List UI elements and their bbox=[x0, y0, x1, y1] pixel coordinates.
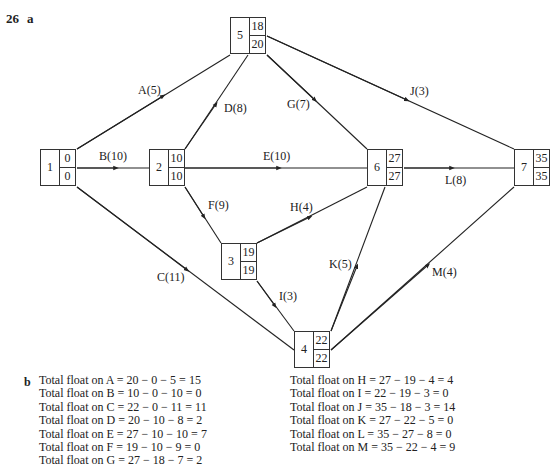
node-id: 7 bbox=[515, 150, 534, 185]
node-id: 4 bbox=[295, 332, 314, 367]
latest-time: 27 bbox=[387, 168, 402, 185]
part-b-label: b bbox=[24, 375, 31, 390]
node-id: 2 bbox=[150, 150, 169, 185]
activity-label-b: B(10) bbox=[99, 149, 127, 164]
node-7: 7 3535 bbox=[514, 149, 550, 186]
activity-label-d: D(8) bbox=[224, 101, 247, 116]
node-id: 1 bbox=[41, 150, 60, 185]
total-float-line: Total float on L = 35 − 27 − 8 = 0 bbox=[290, 428, 455, 441]
earliest-time: 19 bbox=[241, 244, 256, 262]
total-float-line: Total float on H = 27 − 19 − 4 = 4 bbox=[290, 374, 455, 387]
total-float-list-right: Total float on H = 27 − 19 − 4 = 4 Total… bbox=[290, 374, 455, 454]
activity-label-g: G(7) bbox=[287, 97, 310, 112]
activity-label-c: C(11) bbox=[157, 270, 185, 285]
activity-label-f: F(9) bbox=[208, 198, 229, 213]
total-float-line: Total float on E = 27 − 10 − 10 = 7 bbox=[39, 428, 207, 441]
total-float-line: Total float on I = 22 − 19 − 3 = 0 bbox=[290, 387, 455, 400]
earliest-time: 10 bbox=[169, 150, 184, 168]
total-float-line: Total float on G = 27 − 18 − 7 = 2 bbox=[39, 454, 207, 467]
question-number: 26 bbox=[6, 11, 19, 27]
activity-label-k: K(5) bbox=[329, 257, 352, 272]
node-id: 3 bbox=[222, 244, 241, 279]
latest-time: 35 bbox=[534, 168, 549, 185]
node-1: 1 00 bbox=[40, 149, 76, 186]
latest-time: 22 bbox=[314, 350, 329, 367]
total-float-line: Total float on B = 10 − 0 − 10 = 0 bbox=[39, 387, 207, 400]
node-2: 2 1010 bbox=[149, 149, 185, 186]
activity-label-h: H(4) bbox=[290, 200, 313, 215]
activity-label-e: E(10) bbox=[263, 149, 290, 164]
latest-time: 0 bbox=[60, 168, 75, 185]
total-float-line: Total float on K = 27 − 22 − 5 = 0 bbox=[290, 414, 455, 427]
earliest-time: 0 bbox=[60, 150, 75, 168]
total-float-line: Total float on F = 19 − 10 − 9 = 0 bbox=[39, 441, 207, 454]
node-6: 6 2727 bbox=[367, 149, 403, 186]
node-id: 6 bbox=[368, 150, 387, 185]
activity-label-j: J(3) bbox=[410, 84, 429, 99]
node-4: 4 2222 bbox=[294, 331, 330, 368]
activity-label-l: L(8) bbox=[445, 173, 466, 188]
total-float-line: Total float on J = 35 − 18 − 3 = 14 bbox=[290, 401, 455, 414]
activity-label-m: M(4) bbox=[432, 265, 457, 280]
node-5: 5 1820 bbox=[230, 17, 266, 54]
part-a-label: a bbox=[27, 11, 34, 27]
total-float-line: Total float on A = 20 − 0 − 5 = 15 bbox=[39, 374, 207, 387]
activity-label-i: I(3) bbox=[279, 289, 297, 304]
latest-time: 19 bbox=[241, 262, 256, 279]
node-3: 3 1919 bbox=[221, 243, 257, 280]
total-float-line: Total float on M = 35 − 22 − 4 = 9 bbox=[290, 441, 455, 454]
total-float-line: Total float on C = 22 − 0 − 11 = 11 bbox=[39, 401, 207, 414]
earliest-time: 22 bbox=[314, 332, 329, 350]
earliest-time: 35 bbox=[534, 150, 549, 168]
node-id: 5 bbox=[231, 18, 250, 53]
total-float-line: Total float on D = 20 − 10 − 8 = 2 bbox=[39, 414, 207, 427]
activity-label-a: A(5) bbox=[138, 83, 161, 98]
latest-time: 20 bbox=[250, 36, 265, 53]
latest-time: 10 bbox=[169, 168, 184, 185]
earliest-time: 18 bbox=[250, 18, 265, 36]
total-float-list-left: Total float on A = 20 − 0 − 5 = 15 Total… bbox=[39, 374, 207, 467]
earliest-time: 27 bbox=[387, 150, 402, 168]
